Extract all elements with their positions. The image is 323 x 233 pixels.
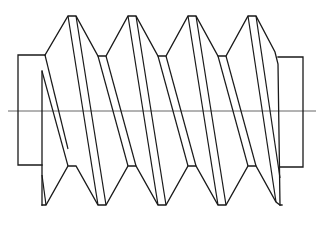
helix-line (128, 16, 158, 205)
helix-line (188, 16, 218, 205)
helix-line (68, 16, 98, 205)
worm-screw-drawing (0, 0, 323, 233)
helix-line (42, 71, 68, 166)
left-shaft (18, 55, 45, 165)
helix-line (45, 55, 68, 149)
bottom-thread-profile (42, 166, 282, 205)
right-shaft (278, 57, 303, 167)
helix-line (248, 16, 276, 202)
